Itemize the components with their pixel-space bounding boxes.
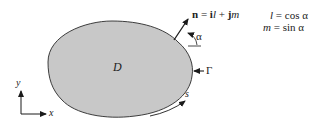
direction-cosine-m: m = sin α: [263, 22, 304, 33]
direction-cosine-l: l = cos α: [270, 10, 308, 21]
y-axis-label: y: [16, 78, 20, 88]
plus-sign: +: [216, 8, 228, 20]
region-label: D: [113, 61, 122, 73]
normal-vector-arrow: [174, 19, 188, 40]
arc-length-label: s: [185, 89, 189, 99]
eq-rhs-m: = sin α: [271, 21, 304, 33]
normal-vector-equation: n = il + jm: [192, 9, 239, 20]
boundary-label: Γ: [206, 65, 212, 76]
x-axis-label: x: [49, 108, 53, 118]
eq-rhs-l: = cos α: [273, 9, 308, 21]
component-m: m: [231, 8, 239, 20]
angle-label: α: [196, 31, 202, 42]
equals-sign: =: [198, 8, 210, 20]
eq-lhs-m: m: [263, 21, 271, 33]
